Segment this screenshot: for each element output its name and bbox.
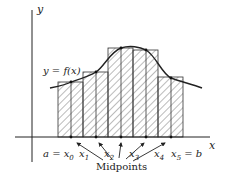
rectangle-3 [108, 48, 133, 137]
x-axis-label: x [209, 140, 215, 151]
curve-label: y = f(x) [43, 66, 81, 76]
tick-label-x5: x5 = b [171, 149, 202, 162]
midpoints-label: Midpoints [96, 162, 147, 172]
tick-label-x4: x4 [154, 149, 164, 162]
midpoint-rectangles [58, 48, 183, 137]
rectangle-2 [83, 72, 108, 137]
midpoint-arrows [77, 143, 165, 161]
tick-label-x1: x1 [79, 149, 89, 162]
rectangle-4 [133, 50, 158, 137]
y-axis-label: y [37, 4, 43, 15]
tick-label-x0: a = x0 [43, 149, 74, 162]
rectangle-5 [158, 77, 183, 137]
rectangle-1 [58, 82, 83, 137]
